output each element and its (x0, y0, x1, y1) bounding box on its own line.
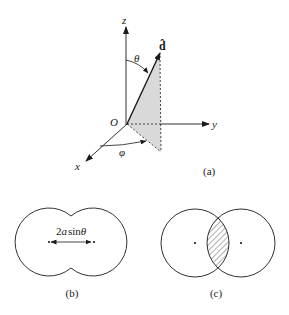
panel-a-caption: (a) (203, 165, 216, 178)
x-axis-label: x (74, 160, 80, 172)
d-hat-label: d̂ (159, 39, 166, 53)
panel-c-caption: (c) (210, 287, 223, 300)
panel-c-overlapping-circles: (c) (161, 209, 275, 300)
dimension-label: 2asinθ (56, 225, 87, 237)
origin-label: O (110, 116, 118, 128)
center-dot-right (93, 241, 95, 243)
left-center-dot (194, 242, 196, 244)
theta-label: θ (134, 52, 140, 64)
right-center-dot (240, 242, 242, 244)
y-axis-label: y (211, 118, 217, 130)
figure-canvas: z y x O d̂ θ φ (a) 2asinθ (b) (c) (0, 0, 289, 315)
panel-a-coordinate-system: z y x O d̂ θ φ (a) (74, 14, 217, 178)
center-dot-left (48, 241, 50, 243)
panel-b-peanut-shape: 2asinθ (b) (15, 208, 127, 300)
panel-b-caption: (b) (66, 287, 79, 300)
phi-label: φ (119, 146, 125, 158)
z-axis-label: z (121, 14, 127, 26)
